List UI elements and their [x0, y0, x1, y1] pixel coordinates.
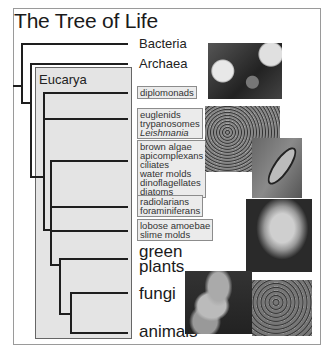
- eucarya-label: Eucarya: [39, 72, 87, 87]
- plants-opisthokont-vertical: [59, 258, 61, 314]
- box-excavates: euglenids trypanosomes Leishmania: [137, 108, 203, 139]
- archaea-branch: [30, 63, 128, 65]
- rhizaria-branch: [50, 206, 128, 208]
- taxon-name: slime molds: [140, 230, 210, 239]
- diatom-shape: [263, 143, 301, 188]
- orchid-photo: [246, 199, 312, 272]
- archaea-eucarya-vertical: [30, 63, 32, 178]
- chromalveolates-branch: [50, 160, 128, 162]
- taxon-name: foraminiferans: [140, 206, 200, 215]
- diatom-photo: [252, 138, 302, 198]
- taxon-name: diplomonads: [140, 88, 194, 97]
- bacteria-branch: [21, 43, 128, 45]
- fungi-photo: [185, 271, 252, 334]
- crown-vertical: [50, 160, 52, 265]
- root-vertical: [21, 43, 23, 103]
- bacteria-photo: [208, 43, 282, 99]
- opisthokont-vertical: [70, 292, 72, 334]
- label-archaea: Archaea: [139, 56, 187, 71]
- box-rhizaria: radiolarians foraminiferans: [137, 195, 203, 217]
- taxon-name: Leishmania: [140, 128, 200, 137]
- eucarya-stem: [30, 176, 44, 178]
- amoebozoa-branch: [50, 230, 128, 232]
- eucarya-vertical: [43, 92, 45, 230]
- box-chromalveolates: brown algae apicomplexans ciliates water…: [137, 140, 206, 198]
- leopard-photo: [252, 280, 312, 336]
- label-green-plants: green plants: [139, 244, 184, 274]
- animals-branch: [70, 332, 128, 334]
- label-bacteria: Bacteria: [139, 36, 187, 51]
- label-plants: plants: [139, 259, 184, 274]
- green-plants-branch: [59, 258, 128, 260]
- box-diplomonads: diplomonads: [137, 86, 197, 99]
- diplomonads-branch: [43, 92, 128, 94]
- box-amoebozoa: lobose amoebae slime molds: [137, 219, 213, 241]
- figure-title: The Tree of Life: [14, 9, 158, 33]
- euglenids-branch: [43, 118, 128, 120]
- label-fungi: fungi: [139, 286, 176, 301]
- fungi-branch: [70, 292, 128, 294]
